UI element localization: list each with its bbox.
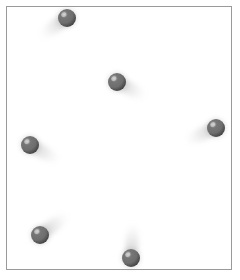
sphere-upper-center-cast-shadow: [109, 74, 149, 103]
sphere-bottom-left: [0, 0, 240, 280]
sphere-upper-center-highlight: [110, 75, 117, 82]
sphere-bottom-left-contact-shadow: [31, 226, 50, 245]
sphere-top: [0, 0, 240, 280]
sphere-left-body: [21, 136, 39, 154]
sphere-layer: [0, 0, 240, 280]
sphere-right: [0, 0, 240, 280]
sphere-bottom-center-contact-shadow: [122, 249, 141, 268]
sphere-bottom-left-highlight: [33, 228, 40, 235]
sphere-left: [0, 0, 240, 280]
sphere-right-contact-shadow: [207, 119, 226, 138]
sphere-right-body: [207, 119, 225, 137]
sphere-top-contact-shadow: [58, 9, 77, 28]
sphere-left-cast-shadow: [22, 137, 62, 167]
sphere-left-highlight: [23, 138, 30, 145]
sphere-top-cast-shadow: [36, 10, 75, 42]
sphere-right-highlight: [209, 121, 216, 128]
sphere-upper-center-body: [108, 73, 126, 91]
sphere-bottom-center-body: [122, 249, 140, 267]
sphere-top-body: [58, 9, 76, 27]
sphere-bottom-center: [0, 0, 240, 280]
sphere-bottom-center-highlight: [124, 251, 131, 258]
stimulus-canvas: [0, 0, 240, 280]
sphere-bottom-left-body: [31, 226, 49, 244]
sphere-top-highlight: [60, 11, 67, 18]
sphere-upper-center-contact-shadow: [108, 73, 127, 92]
sphere-bottom-center-cast-shadow: [124, 222, 140, 264]
sphere-bottom-left-cast-shadow: [32, 209, 72, 243]
sphere-left-contact-shadow: [21, 136, 40, 155]
sphere-upper-center: [0, 0, 240, 280]
sphere-right-cast-shadow: [182, 120, 223, 148]
